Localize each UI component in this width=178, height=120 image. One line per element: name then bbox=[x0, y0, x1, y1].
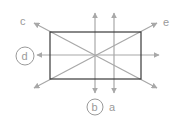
label-b: b bbox=[92, 101, 98, 113]
symmetry-diagram: c e d b a bbox=[0, 0, 178, 120]
label-a: a bbox=[109, 101, 116, 113]
label-d: d bbox=[22, 50, 28, 62]
label-c: c bbox=[20, 15, 26, 27]
label-e: e bbox=[163, 16, 169, 28]
